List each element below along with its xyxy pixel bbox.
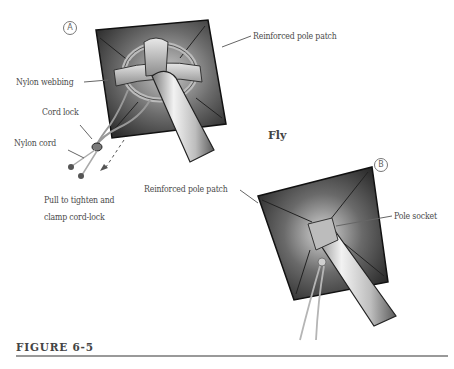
label-pull-instruction-2: clamp cord-lock <box>44 211 105 222</box>
label-pole-socket: Pole socket <box>394 210 437 221</box>
label-nylon-cord: Nylon cord <box>14 137 56 148</box>
label-pull-instruction-1: Pull to tighten and <box>44 194 114 205</box>
cord-lock-illustration <box>68 140 124 179</box>
label-reinforced-pole-patch-a: Reinforced pole patch <box>253 30 337 41</box>
panel-a-marker: A <box>63 21 77 35</box>
fly-title: Fly <box>268 129 286 142</box>
caption-rule <box>16 355 448 357</box>
label-cord-lock: Cord lock <box>42 106 79 117</box>
label-reinforced-pole-patch-b: Reinforced pole patch <box>144 183 228 194</box>
figure-caption: FIGURE 6-5 <box>16 341 94 353</box>
label-nylon-webbing: Nylon webbing <box>16 76 74 87</box>
panel-b-marker: B <box>374 158 388 172</box>
